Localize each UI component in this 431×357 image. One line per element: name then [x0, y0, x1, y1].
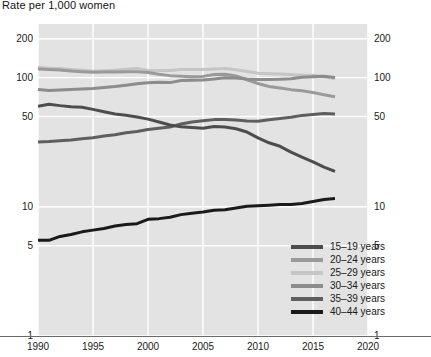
chart-page: Rate per 1,000 women 151050100200 151050…	[0, 0, 431, 357]
x-axis-tick: 1990	[18, 341, 58, 352]
x-axis-tick: 2010	[238, 341, 278, 352]
y-axis-tick-left: 100	[0, 72, 33, 83]
legend-item-label: 35–39 years	[330, 293, 385, 304]
legend-swatch-icon	[291, 258, 323, 262]
y-axis-tick-right: 50	[374, 111, 414, 122]
chart-legend: 15–19 years20–24 years25–29 years30–34 y…	[291, 240, 385, 318]
legend-swatch-icon	[291, 271, 323, 275]
legend-item[interactable]: 25–29 years	[291, 266, 385, 279]
y-axis-tick-right: 200	[374, 33, 414, 44]
x-axis-tick: 2015	[293, 341, 333, 352]
y-axis-tick-left: 10	[0, 201, 33, 212]
chart-title: Rate per 1,000 women	[2, 0, 115, 11]
legend-item-label: 15–19 years	[330, 241, 385, 252]
legend-item[interactable]: 15–19 years	[291, 240, 385, 253]
legend-item-label: 30–34 years	[330, 280, 385, 291]
legend-item-label: 20–24 years	[330, 254, 385, 265]
legend-swatch-icon	[291, 245, 323, 249]
x-axis-tick: 1995	[73, 341, 113, 352]
y-axis-tick-left: 5	[0, 240, 33, 251]
legend-swatch-icon	[291, 310, 323, 314]
legend-item-label: 40–44 years	[330, 306, 385, 317]
series-line-40-44	[38, 198, 335, 240]
y-axis-tick-left: 200	[0, 33, 33, 44]
legend-swatch-icon	[291, 297, 323, 301]
x-axis-tick: 2005	[183, 341, 223, 352]
legend-item[interactable]: 30–34 years	[291, 279, 385, 292]
legend-item[interactable]: 35–39 years	[291, 292, 385, 305]
legend-item-label: 25–29 years	[330, 267, 385, 278]
x-axis-tick: 2000	[128, 341, 168, 352]
y-axis-tick-right: 10	[374, 201, 414, 212]
x-axis-line	[0, 336, 431, 337]
legend-item[interactable]: 20–24 years	[291, 253, 385, 266]
legend-swatch-icon	[291, 284, 323, 288]
x-axis-tick: 2020	[348, 341, 388, 352]
y-axis-tick-left: 50	[0, 111, 33, 122]
legend-item[interactable]: 40–44 years	[291, 305, 385, 318]
y-axis-tick-right: 100	[374, 72, 414, 83]
